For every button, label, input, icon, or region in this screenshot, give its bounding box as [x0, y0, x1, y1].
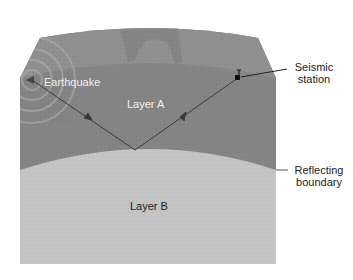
earth-cross-section	[0, 0, 353, 280]
seismic-diagram	[0, 0, 353, 280]
earthquake-label: Earthquake	[44, 76, 100, 88]
reflecting-boundary-label-line2: boundary	[288, 176, 350, 188]
seismic-station-label-line1: Seismic	[284, 61, 344, 73]
reflecting-boundary-label-line1: Reflecting	[288, 164, 350, 176]
seismic-station-label-line2: station	[284, 73, 344, 85]
reflecting-boundary-label: Reflecting boundary	[288, 164, 350, 188]
layer-b-label: Layer B	[130, 200, 168, 212]
layer-a-label: Layer A	[127, 98, 164, 110]
seismic-station-label: Seismic station	[284, 61, 344, 85]
